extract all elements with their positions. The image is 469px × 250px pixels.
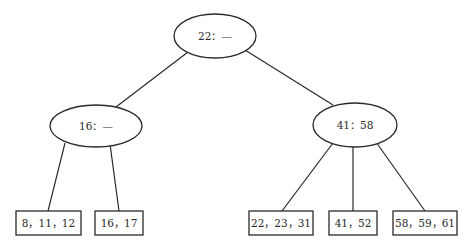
leaf-label: 58，59，61 [395,217,455,229]
leaf-node-leaf1: 8，11，12 [16,211,81,235]
node-label: 16：— [79,120,113,132]
internal-node-root: 22：— [174,14,256,58]
leaf-node-leaf3: 22，23，31 [249,211,313,235]
internal-node-right: 41：58 [313,103,397,147]
edge-right-leaf3 [282,143,333,211]
edge-root-left [116,52,188,107]
node-label: 22：— [198,30,232,42]
leaf-label: 8，11，12 [22,217,75,229]
leaf-node-leaf5: 58，59，61 [393,211,457,235]
internal-nodes: 22：—16：—41：58 [50,14,397,147]
b-tree-diagram: 22：—16：—41：58 8，11，1216，1722，23，3141，525… [0,0,469,250]
edge-root-right [245,50,333,105]
leaf-label: 16，17 [101,217,138,229]
edge-left-leaf1 [48,143,65,211]
internal-node-left: 16：— [50,105,142,147]
leaf-label: 22，23，31 [251,217,311,229]
leaf-node-leaf2: 16，17 [95,211,143,235]
leaf-label: 41，52 [335,217,372,229]
node-label: 41：58 [337,119,374,131]
leaf-node-leaf4: 41，52 [329,211,377,235]
edge-right-leaf5 [376,142,425,211]
leaf-nodes: 8，11，1216，1722，23，3141，5258，59，61 [16,211,457,235]
edge-left-leaf2 [110,144,119,211]
